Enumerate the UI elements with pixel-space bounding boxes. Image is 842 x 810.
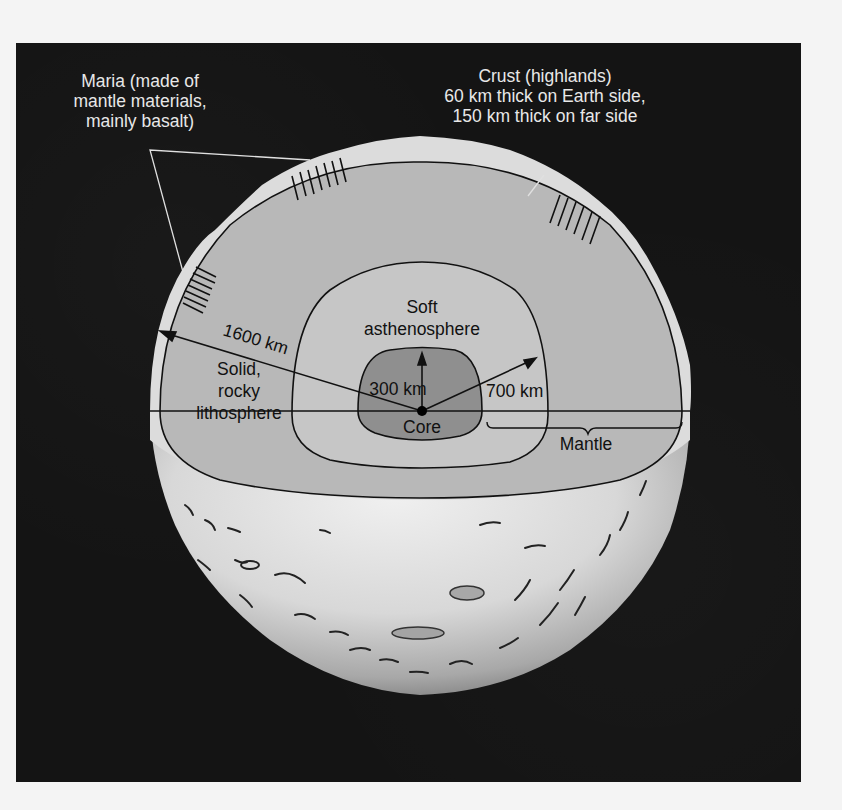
lithosphere-label-line2: rocky [218,381,260,401]
maria-label-line1: Maria (made of [81,71,199,91]
center-point [417,406,427,416]
crater [450,586,484,600]
moon-cutaway-diagram: Maria (made of mantle materials, mainly … [0,0,842,810]
lithosphere-label-line1: Solid, [217,359,261,379]
asthenosphere-label-line2: asthenosphere [364,319,480,339]
crater [392,627,444,639]
radius-300km-label: 300 km [369,379,426,399]
maria-label-line2: mantle materials, [73,91,206,111]
crust-label-line2: 60 km thick on Earth side, [444,86,645,106]
core-label: Core [403,417,441,437]
lithosphere-label-line3: lithosphere [196,403,282,423]
crust-label-line3: 150 km thick on far side [453,106,638,126]
asthenosphere-label-line1: Soft [406,297,437,317]
radius-700km-label: 700 km [486,381,543,401]
maria-label-line3: mainly basalt) [86,111,194,131]
crust-label-line1: Crust (highlands) [478,66,611,86]
mantle-label: Mantle [560,434,613,454]
